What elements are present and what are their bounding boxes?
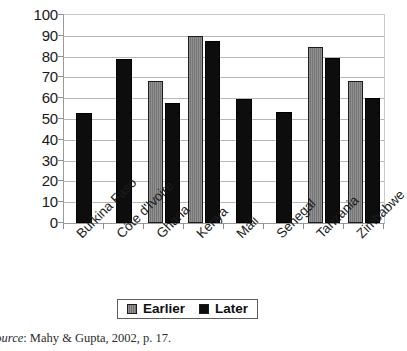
y-tick-label: 80	[6, 48, 58, 63]
legend-swatch-earlier-icon	[127, 304, 137, 314]
legend-label: Later	[215, 302, 248, 316]
y-axis-tick-labels: 1009080706050403020100	[6, 8, 58, 222]
legend-label: Earlier	[143, 302, 185, 316]
y-tick-label: 100	[6, 7, 58, 22]
y-tick-label: 90	[6, 27, 58, 42]
y-tick-label: 50	[6, 111, 58, 126]
y-tick-label: 40	[6, 131, 58, 146]
legend-entry-earlier: Earlier	[127, 302, 185, 316]
y-tick-label: 20	[6, 173, 58, 188]
bar-later-burkina-faso	[76, 113, 92, 223]
y-tick-label: 10	[6, 194, 58, 209]
bar-chart: 1009080706050403020100 Burkina FasoCôte …	[0, 0, 390, 325]
y-tick-label: 30	[6, 152, 58, 167]
x-axis-category-labels: Burkina FasoCôte d'IvoireGhanaKenyaMaliS…	[0, 226, 390, 306]
bar-later-mali	[236, 99, 252, 223]
legend-entry-later: Later	[199, 302, 248, 316]
y-tick-label: 70	[6, 69, 58, 84]
legend-swatch-later-icon	[199, 304, 209, 314]
bar-earlier-kenya	[188, 36, 204, 223]
chart-legend: EarlierLater	[117, 299, 258, 319]
bar-later-tanzania	[325, 58, 341, 223]
source-label: Source	[0, 331, 23, 345]
bar-later-kenya	[205, 41, 221, 223]
source-caption: Source: Mahy & Gupta, 2002, p. 17.	[0, 332, 389, 345]
source-reference: : Mahy & Gupta, 2002, p. 17.	[23, 331, 171, 345]
y-tick-label: 60	[6, 90, 58, 105]
bar-earlier-tanzania	[308, 47, 324, 223]
bar-later-senegal	[276, 112, 292, 223]
